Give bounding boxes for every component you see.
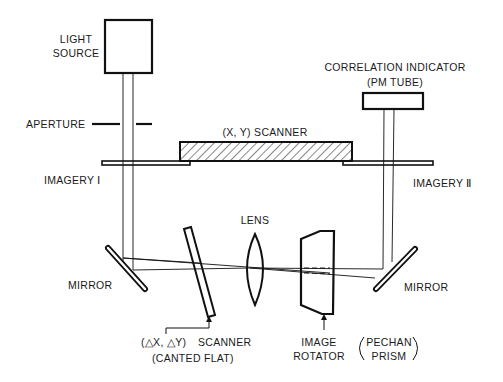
canted-flat-arrow <box>166 316 212 334</box>
light-source-label-2: SOURCE <box>53 47 100 59</box>
image-rotator-label-1: IMAGE <box>301 336 336 348</box>
dxdy-scanner-label: (△X, △Y) <box>141 336 186 348</box>
lens <box>247 234 263 305</box>
imagery-2-plate <box>343 161 433 165</box>
mirror-right-label: MIRROR <box>404 281 448 293</box>
aperture-label: APERTURE <box>26 118 85 130</box>
pechan-label-2: PRISM <box>372 350 407 362</box>
image-rotator-label-2: ROTATOR <box>293 350 345 362</box>
mirror-left <box>108 248 145 289</box>
imagery-1-plate <box>102 161 190 165</box>
pechan-label-1: PECHAN <box>366 336 412 348</box>
imagery-1-label: IMAGERY Ⅰ <box>44 174 101 186</box>
left-beam <box>123 73 133 270</box>
mirror-left-label: MIRROR <box>68 279 112 291</box>
light-source-label-1: LIGHT <box>60 33 93 45</box>
xy-scanner-label: (X, Y) SCANNER <box>222 126 307 138</box>
correlation-indicator-label-2: (PM TUBE) <box>367 76 423 88</box>
right-beam <box>383 109 394 269</box>
correlation-indicator <box>363 93 423 109</box>
light-source <box>105 20 152 73</box>
optical-diagram: LIGHT SOURCE APERTURE (X, Y) SCANNER IMA… <box>0 0 503 382</box>
lens-label: LENS <box>241 214 270 226</box>
imagery-2-label: IMAGERY Ⅱ <box>413 177 472 189</box>
xy-scanner <box>180 142 352 161</box>
correlation-indicator-label-1: CORRELATION INDICATOR <box>324 61 465 73</box>
canted-flat-scanner <box>184 227 215 317</box>
horizontal-beams <box>123 258 383 278</box>
dxdy-scanner-label-b: SCANNER <box>198 336 252 348</box>
canted-flat-label: (CANTED FLAT) <box>152 352 234 364</box>
image-rotator-arrow <box>321 314 327 330</box>
